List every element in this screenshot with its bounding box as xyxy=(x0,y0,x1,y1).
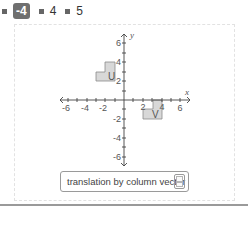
shape-u: U xyxy=(96,62,115,82)
x-tick-label: -6 xyxy=(62,103,70,113)
y-tick-label: 4 xyxy=(116,57,121,67)
vector-bottom-field[interactable] xyxy=(176,182,183,188)
x-tick-label: -4 xyxy=(81,103,89,113)
y-tick-label: -4 xyxy=(113,133,121,143)
shape-v-label: V xyxy=(152,109,159,120)
column-vector-input[interactable] xyxy=(174,174,185,189)
y-tick-label: -2 xyxy=(113,114,121,124)
y-tick-label: 6 xyxy=(116,38,121,48)
translation-label: translation by column vector xyxy=(67,176,185,187)
y-tick-label: -6 xyxy=(113,152,121,162)
x-tick-label: 2 xyxy=(140,102,145,112)
y-axis-label: y xyxy=(129,30,134,40)
x-tick-label: 4 xyxy=(159,102,164,112)
bottom-divider xyxy=(0,204,248,206)
x-axis-label: x xyxy=(184,87,189,97)
x-tick-label: 6 xyxy=(177,103,182,113)
x-tick-label: -2 xyxy=(99,103,107,113)
y-tick-label: 2 xyxy=(116,76,121,86)
axes xyxy=(60,34,190,166)
translation-answer-box: translation by column vector xyxy=(60,171,189,192)
shape-u-label: U xyxy=(108,71,115,82)
